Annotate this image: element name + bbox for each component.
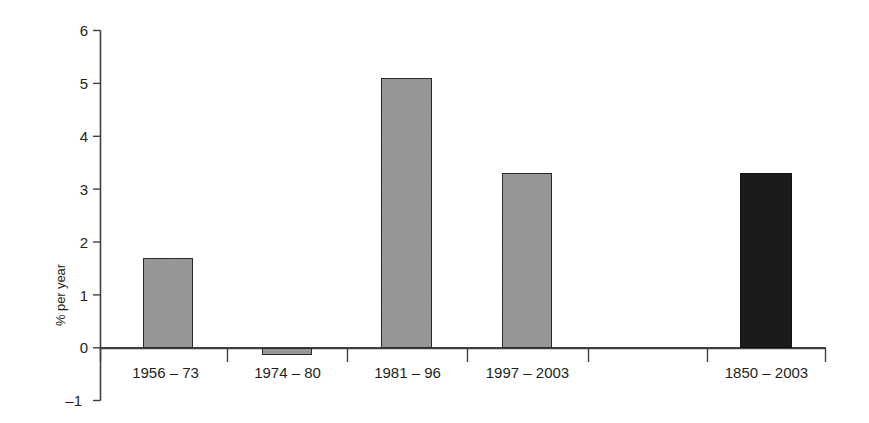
bar-1981-96 (381, 78, 432, 348)
y-tick-label-0: 0 (48, 340, 88, 355)
y-tick-label-6: 6 (48, 23, 88, 38)
bar-1997-2003 (502, 173, 552, 348)
y-tick-label-5: 5 (48, 76, 88, 91)
x-tick-label-1850-2003: 1850 – 2003 (700, 364, 833, 381)
y-tick-label-3: 3 (48, 182, 88, 197)
bar-1956-73 (143, 258, 193, 348)
x-tick-label-1997-2003: 1997 – 2003 (461, 364, 594, 381)
y-tick-label-1: 1 (48, 288, 88, 303)
bar-chart: % per year 6 5 4 3 2 1 0 –1 (0, 0, 869, 423)
y-tick-label-2: 2 (48, 235, 88, 250)
y-tick-label-4: 4 (48, 129, 88, 144)
bar-1850-2003 (740, 173, 792, 348)
chart-axes (0, 0, 869, 423)
x-tick-label-1974-80: 1974 – 80 (225, 364, 350, 381)
x-tick-label-1981-96: 1981 – 96 (345, 364, 470, 381)
x-tick-label-1956-73: 1956 – 73 (103, 364, 228, 381)
bar-1974-80 (262, 348, 312, 355)
y-tick-label-neg1: –1 (42, 393, 82, 408)
